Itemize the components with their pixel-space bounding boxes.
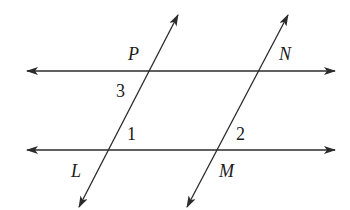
- angle-label-3: 3: [116, 81, 125, 101]
- angle-label-1: 1: [127, 124, 136, 144]
- point-label-n: N: [278, 44, 292, 64]
- point-label-p: P: [127, 44, 139, 64]
- point-label-l: L: [70, 161, 81, 181]
- right-transversal-line: [187, 15, 288, 207]
- parallel-lines-diagram: P N L M 3 1 2: [0, 0, 350, 210]
- point-label-m: M: [218, 161, 235, 181]
- angle-label-2: 2: [236, 124, 245, 144]
